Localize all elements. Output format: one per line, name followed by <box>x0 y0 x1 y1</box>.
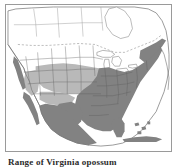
figure-container: Range of Virginia opossum Primary range … <box>0 0 180 167</box>
figure-caption: Range of Virginia opossum <box>8 157 172 167</box>
range-map-graphic <box>6 5 171 151</box>
map-frame <box>5 4 172 152</box>
lake-ontario <box>129 64 138 68</box>
